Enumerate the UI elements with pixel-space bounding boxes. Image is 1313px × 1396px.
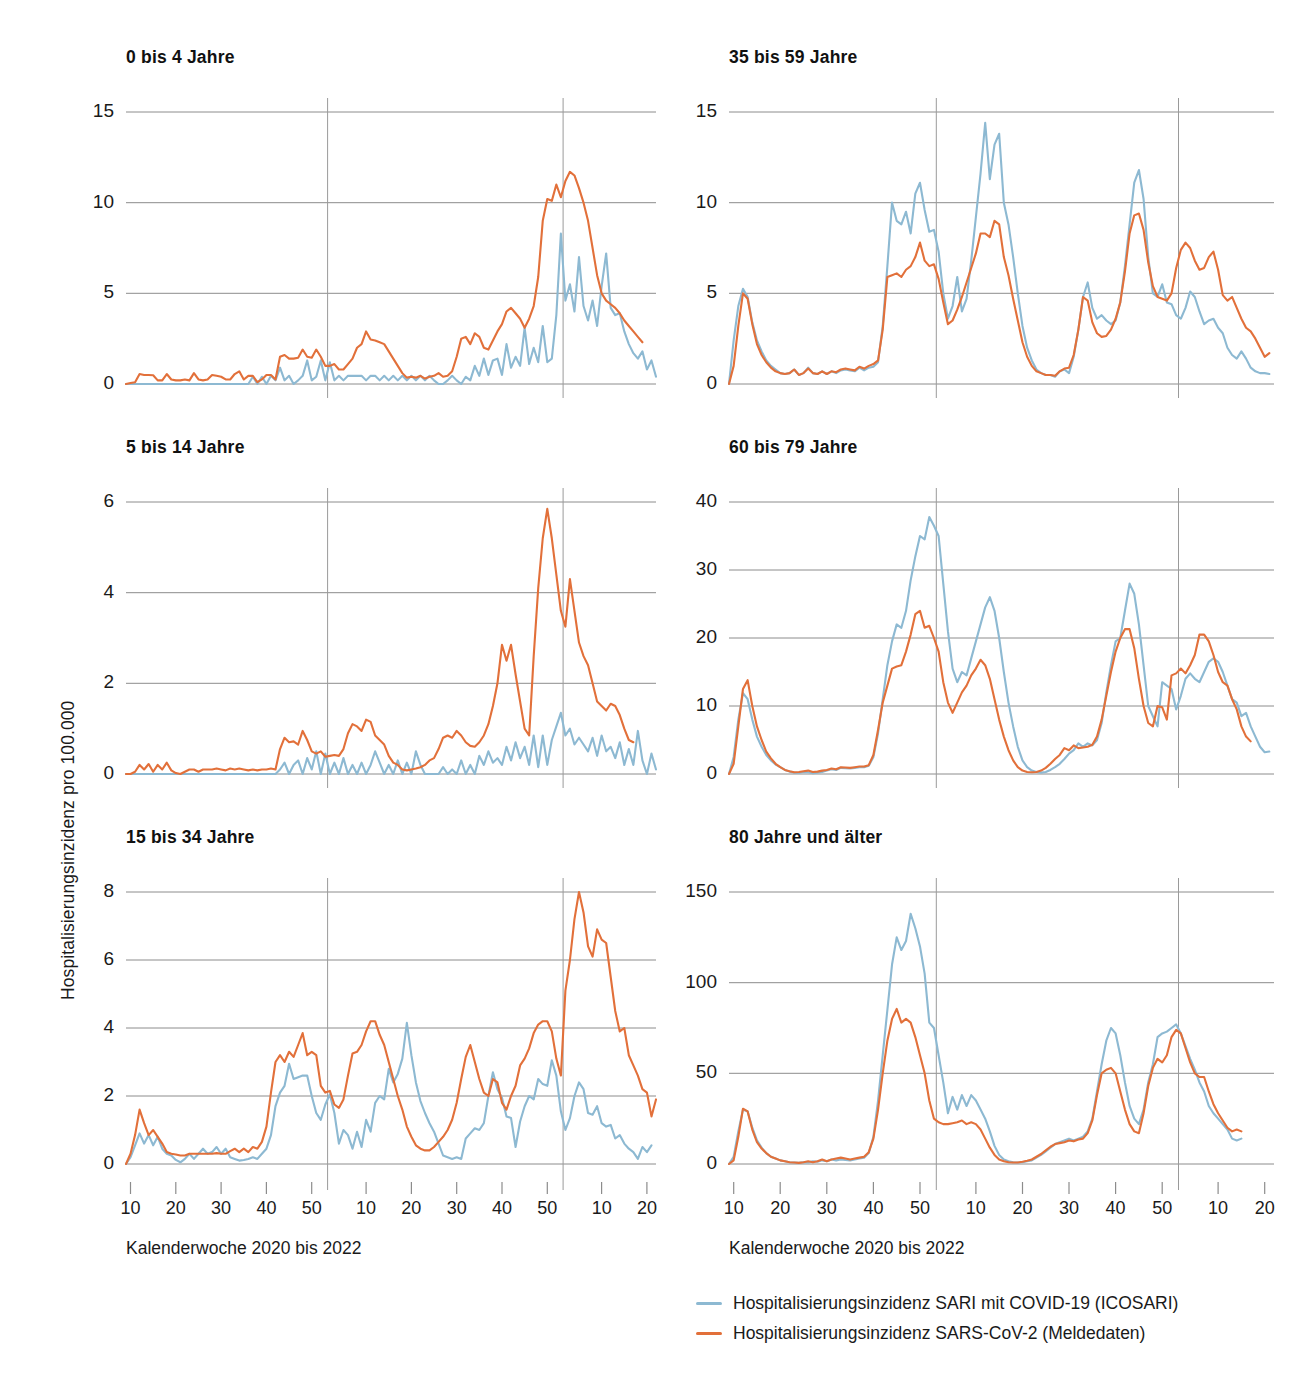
x-tick-label-age-80plus-10: 10 — [1195, 1198, 1241, 1219]
x-tick-label-age-15-34-6: 20 — [388, 1198, 434, 1219]
y-tick-label-age-35-59-10: 10 — [627, 191, 717, 213]
series-line-sari-age-15-34 — [126, 1023, 651, 1164]
legend-swatch-meldedaten — [696, 1332, 722, 1335]
legend: Hospitalisierungsinzidenz SARI mit COVID… — [696, 1288, 1178, 1348]
y-tick-label-age-5-14-6: 6 — [24, 490, 114, 512]
x-axis-caption-left: Kalenderwoche 2020 bis 2022 — [126, 1238, 361, 1259]
x-tick-label-age-80plus-9: 50 — [1139, 1198, 1185, 1219]
x-tick-label-age-15-34-4: 50 — [289, 1198, 335, 1219]
x-tick-label-age-80plus-4: 50 — [897, 1198, 943, 1219]
panel-title-age-5-14: 5 bis 14 Jahre — [126, 437, 245, 458]
x-tick-label-age-80plus-1: 20 — [757, 1198, 803, 1219]
y-tick-label-age-60-79-40: 40 — [627, 490, 717, 512]
y-tick-label-age-15-34-8: 8 — [24, 880, 114, 902]
figure-root: Hospitalisierungsinzidenz pro 100.000 0 … — [0, 0, 1313, 1396]
y-tick-label-age-35-59-15: 15 — [627, 100, 717, 122]
legend-label-sari: Hospitalisierungsinzidenz SARI mit COVID… — [733, 1293, 1178, 1314]
y-tick-label-age-15-34-6: 6 — [24, 948, 114, 970]
y-tick-label-age-60-79-0: 0 — [627, 762, 717, 784]
y-tick-label-age-0-4-5: 5 — [24, 281, 114, 303]
x-tick-label-age-80plus-3: 40 — [850, 1198, 896, 1219]
y-tick-label-age-60-79-20: 20 — [627, 626, 717, 648]
y-tick-label-age-80plus-150: 150 — [627, 880, 717, 902]
y-tick-label-age-15-34-2: 2 — [24, 1084, 114, 1106]
x-axis-caption-right: Kalenderwoche 2020 bis 2022 — [729, 1238, 964, 1259]
y-tick-label-age-5-14-0: 0 — [24, 762, 114, 784]
x-tick-label-age-15-34-10: 10 — [579, 1198, 625, 1219]
x-tick-label-age-15-34-2: 30 — [198, 1198, 244, 1219]
series-line-meldedaten-age-5-14 — [126, 509, 633, 774]
x-tick-label-age-15-34-9: 50 — [524, 1198, 570, 1219]
plot-area-age-80plus — [729, 892, 1313, 1224]
x-tick-label-age-15-34-5: 10 — [343, 1198, 389, 1219]
x-tick-label-age-15-34-7: 30 — [434, 1198, 480, 1219]
x-tick-label-age-15-34-8: 40 — [479, 1198, 525, 1219]
x-tick-label-age-80plus-7: 30 — [1046, 1198, 1092, 1219]
y-tick-label-age-5-14-4: 4 — [24, 581, 114, 603]
x-tick-label-age-80plus-0: 10 — [711, 1198, 757, 1219]
series-line-meldedaten-age-0-4 — [126, 172, 642, 384]
legend-label-meldedaten: Hospitalisierungsinzidenz SARS-CoV-2 (Me… — [733, 1323, 1145, 1344]
plot-area-age-60-79 — [729, 502, 1313, 834]
panel-title-age-35-59: 35 bis 59 Jahre — [729, 47, 858, 68]
y-tick-label-age-80plus-0: 0 — [627, 1152, 717, 1174]
legend-swatch-sari — [696, 1302, 722, 1305]
x-tick-label-age-80plus-5: 10 — [953, 1198, 999, 1219]
y-tick-label-age-0-4-0: 0 — [24, 372, 114, 394]
y-tick-label-age-35-59-5: 5 — [627, 281, 717, 303]
y-tick-label-age-15-34-4: 4 — [24, 1016, 114, 1038]
x-tick-label-age-80plus-8: 40 — [1093, 1198, 1139, 1219]
panel-title-age-60-79: 60 bis 79 Jahre — [729, 437, 858, 458]
legend-item-meldedaten[interactable]: Hospitalisierungsinzidenz SARS-CoV-2 (Me… — [696, 1318, 1178, 1348]
series-line-sari-age-5-14 — [126, 713, 656, 774]
plot-area-age-15-34 — [126, 892, 716, 1224]
y-tick-label-age-80plus-50: 50 — [627, 1061, 717, 1083]
series-line-sari-age-80plus — [729, 914, 1241, 1164]
x-tick-label-age-15-34-0: 10 — [108, 1198, 154, 1219]
x-tick-label-age-80plus-2: 30 — [804, 1198, 850, 1219]
y-tick-label-age-35-59-0: 0 — [627, 372, 717, 394]
x-tick-label-age-80plus-6: 20 — [999, 1198, 1045, 1219]
x-tick-label-age-15-34-1: 20 — [153, 1198, 199, 1219]
plot-area-age-0-4 — [126, 112, 716, 444]
panel-title-age-80plus: 80 Jahre und älter — [729, 827, 882, 848]
x-tick-label-age-15-34-11: 20 — [624, 1198, 670, 1219]
panel-title-age-0-4: 0 bis 4 Jahre — [126, 47, 235, 68]
legend-item-sari[interactable]: Hospitalisierungsinzidenz SARI mit COVID… — [696, 1288, 1178, 1318]
y-tick-label-age-80plus-100: 100 — [627, 971, 717, 993]
series-line-sari-age-0-4 — [126, 233, 656, 384]
series-line-sari-age-35-59 — [729, 123, 1269, 384]
y-tick-label-age-15-34-0: 0 — [24, 1152, 114, 1174]
y-tick-label-age-60-79-10: 10 — [627, 694, 717, 716]
y-tick-label-age-60-79-30: 30 — [627, 558, 717, 580]
plot-area-age-35-59 — [729, 112, 1313, 444]
panel-title-age-15-34: 15 bis 34 Jahre — [126, 827, 255, 848]
series-line-sari-age-60-79 — [729, 517, 1269, 774]
plot-area-age-5-14 — [126, 502, 716, 834]
y-tick-label-age-0-4-15: 15 — [24, 100, 114, 122]
y-tick-label-age-5-14-2: 2 — [24, 671, 114, 693]
y-tick-label-age-0-4-10: 10 — [24, 191, 114, 213]
x-tick-label-age-80plus-11: 20 — [1242, 1198, 1288, 1219]
x-tick-label-age-15-34-3: 40 — [243, 1198, 289, 1219]
